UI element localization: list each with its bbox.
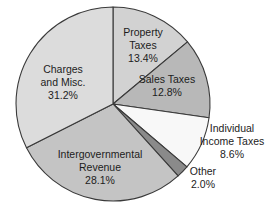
slice-label-sales-taxes-line1: Sales Taxes: [139, 73, 195, 85]
slice-label-intergovernmental-revenue-line2: Revenue: [79, 161, 121, 173]
slice-value-individual-income-taxes: 8.6%: [220, 148, 244, 160]
slice-label-property-taxes-line1: Property: [123, 26, 163, 38]
slice-value-charges-and-misc: 31.2%: [48, 89, 78, 101]
slice-label-charges-and-misc-line2: and Misc.: [41, 76, 86, 88]
slice-label-charges-and-misc-line1: Charges: [43, 63, 83, 75]
slice-label-intergovernmental-revenue-line1: Intergovernmental: [58, 148, 143, 160]
slice-label-individual-income-taxes: Individual Income Taxes 8.6%: [200, 122, 265, 160]
slice-label-individual-income-taxes-line2: Income Taxes: [200, 135, 265, 147]
slice-value-intergovernmental-revenue: 28.1%: [85, 174, 115, 186]
slice-value-property-taxes: 13.4%: [128, 52, 158, 64]
slice-label-individual-income-taxes-line1: Individual: [210, 122, 254, 134]
pie-chart-svg: Property Taxes 13.4% Sales Taxes 12.8% I…: [0, 0, 276, 214]
pie-chart: Property Taxes 13.4% Sales Taxes 12.8% I…: [0, 0, 276, 214]
slice-label-other-line1: Other: [190, 165, 217, 177]
slice-label-property-taxes-line2: Taxes: [129, 39, 156, 51]
slice-label-other: Other 2.0%: [190, 165, 217, 190]
slice-value-other: 2.0%: [191, 178, 215, 190]
slice-value-sales-taxes: 12.8%: [152, 86, 182, 98]
